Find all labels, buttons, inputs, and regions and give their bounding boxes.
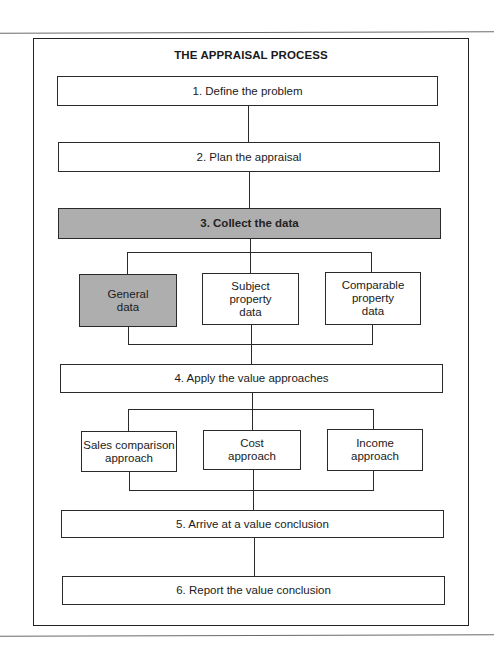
data-bracket-left-top — [127, 252, 128, 274]
data-bracket-right-top — [371, 252, 372, 272]
income-approach-line2: approach — [351, 450, 399, 463]
step-2-label: 2. Plan the appraisal — [197, 151, 302, 164]
approach-income: Income approach — [327, 429, 423, 471]
step-6-report-conclusion: 6. Report the value conclusion — [62, 576, 445, 605]
diagram-title: THE APPRAISAL PROCESS — [33, 49, 469, 61]
step-3-label: 3. Collect the data — [200, 217, 298, 230]
sales-approach-line1: Sales comparison — [83, 439, 174, 452]
step-6-label: 6. Report the value conclusion — [176, 584, 331, 597]
data-bracket-left-bottom — [128, 326, 129, 345]
approach-bracket-left-top — [128, 409, 129, 432]
approach-bracket-left-bottom — [129, 471, 130, 491]
income-approach-line1: Income — [356, 437, 394, 450]
comparable-data-line2: property — [352, 292, 394, 305]
connector-5-6 — [254, 537, 255, 577]
step-1-label: 1. Define the problem — [193, 85, 303, 98]
top-page-rule — [0, 31, 494, 33]
approach-bracket-right-top — [373, 409, 374, 430]
connector-3-bracket — [250, 238, 251, 273]
data-general: General data — [79, 274, 177, 327]
step-2-plan-appraisal: 2. Plan the appraisal — [58, 142, 440, 172]
step-4-label: 4. Apply the value approaches — [174, 372, 328, 385]
data-subject-property: Subject property data — [202, 273, 299, 325]
approach-bracket-right-bottom — [373, 470, 374, 491]
subject-data-line3: data — [239, 306, 261, 319]
data-bracket-bottom — [128, 344, 373, 345]
approach-bracket-top — [128, 409, 374, 410]
connector-4-bracket — [252, 392, 253, 432]
data-comparable-property: Comparable property data — [325, 272, 421, 325]
approach-sales-comparison: Sales comparison approach — [81, 431, 177, 472]
approach-bracket-bottom — [129, 490, 374, 491]
data-bracket-top — [127, 252, 372, 253]
comparable-data-line3: data — [362, 305, 384, 318]
sales-approach-line2: approach — [105, 452, 153, 465]
step-1-define-problem: 1. Define the problem — [57, 76, 438, 106]
connector-2-3 — [249, 171, 250, 209]
data-bracket-right-bottom — [372, 324, 373, 345]
step-3-collect-data: 3. Collect the data — [58, 208, 441, 239]
subject-data-line2: property — [229, 293, 271, 306]
cost-approach-line2: approach — [228, 450, 276, 463]
step-5-label: 5. Arrive at a value conclusion — [176, 518, 329, 531]
subject-data-line1: Subject — [231, 280, 269, 293]
cost-approach-line1: Cost — [240, 437, 264, 450]
bottom-page-rule — [0, 634, 494, 636]
general-data-line2: data — [117, 301, 139, 314]
approach-cost: Cost approach — [203, 430, 301, 470]
general-data-line1: General — [108, 288, 149, 301]
step-5-value-conclusion: 5. Arrive at a value conclusion — [61, 510, 444, 538]
comparable-data-line1: Comparable — [342, 279, 405, 292]
connector-1-2 — [248, 105, 249, 142]
step-4-apply-approaches: 4. Apply the value approaches — [60, 364, 443, 393]
